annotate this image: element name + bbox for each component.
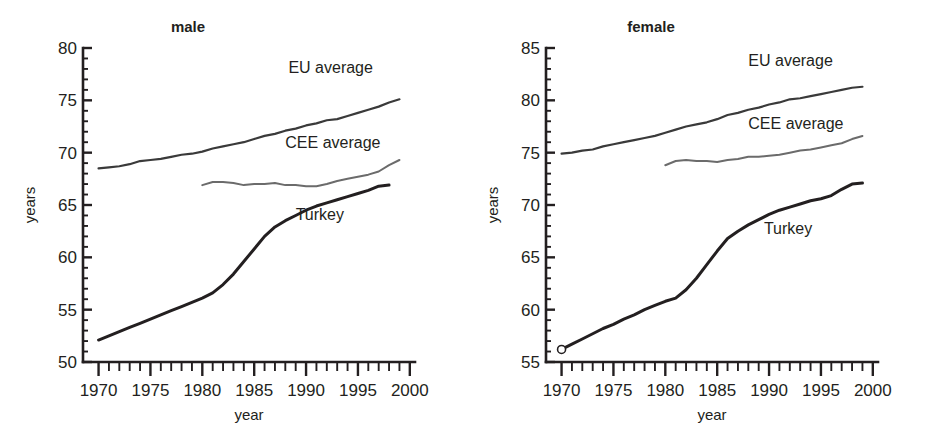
- x-tick-label: 1990: [750, 381, 788, 400]
- series-start-marker: [558, 345, 566, 353]
- y-tick-label: 70: [521, 196, 540, 215]
- panel-title: male: [171, 18, 205, 35]
- x-tick-label: 1975: [132, 381, 170, 400]
- x-tick-label: 1970: [80, 381, 118, 400]
- series-line-turkey: [562, 183, 863, 349]
- y-tick-label: 80: [58, 39, 77, 58]
- y-tick-label: 65: [58, 196, 77, 215]
- series-label-eu-average: EU average: [748, 52, 833, 69]
- chart-svg-male: 5055606570758019701975198019851990199520…: [0, 0, 463, 436]
- chart-female: 5560657075808519701975198019851990199520…: [484, 18, 892, 423]
- series-label-eu-average: EU average: [288, 59, 373, 76]
- x-tick-label: 2000: [854, 381, 892, 400]
- y-tick-label: 85: [521, 39, 540, 58]
- chart-panel-male: 5055606570758019701975198019851990199520…: [0, 0, 463, 436]
- series-label-turkey: Turkey: [296, 206, 344, 223]
- x-tick-label: 1985: [698, 381, 736, 400]
- chart-male: 5055606570758019701975198019851990199520…: [21, 18, 429, 423]
- x-tick-label: 2000: [391, 381, 429, 400]
- x-tick-label: 1980: [646, 381, 684, 400]
- series-label-cee-average: CEE average: [285, 134, 380, 151]
- y-tick-label: 75: [58, 91, 77, 110]
- y-tick-label: 60: [58, 248, 77, 267]
- x-tick-label: 1970: [543, 381, 581, 400]
- y-axis-title: years: [484, 187, 501, 224]
- y-tick-label: 50: [58, 353, 77, 372]
- y-tick-label: 55: [521, 353, 540, 372]
- series-label-turkey: Turkey: [764, 220, 812, 237]
- y-tick-label: 55: [58, 301, 77, 320]
- series-line-cee-average: [665, 136, 862, 165]
- series-label-cee-average: CEE average: [748, 115, 843, 132]
- y-tick-label: 70: [58, 144, 77, 163]
- x-tick-label: 1990: [287, 381, 325, 400]
- y-tick-label: 60: [521, 301, 540, 320]
- chart-panel-female: 5560657075808519701975198019851990199520…: [463, 0, 926, 436]
- series-line-turkey: [99, 185, 390, 340]
- y-tick-label: 75: [521, 144, 540, 163]
- chart-svg-female: 5560657075808519701975198019851990199520…: [463, 0, 926, 436]
- figure-root: 5055606570758019701975198019851990199520…: [0, 0, 926, 436]
- y-tick-label: 80: [521, 91, 540, 110]
- x-tick-label: 1980: [183, 381, 221, 400]
- series-line-cee-average: [202, 160, 399, 186]
- x-tick-label: 1985: [235, 381, 273, 400]
- panel-title: female: [627, 18, 675, 35]
- y-tick-label: 65: [521, 248, 540, 267]
- x-tick-label: 1995: [802, 381, 840, 400]
- x-axis-title: year: [234, 406, 263, 423]
- x-tick-label: 1975: [595, 381, 633, 400]
- x-tick-label: 1995: [339, 381, 377, 400]
- x-axis-title: year: [697, 406, 726, 423]
- y-axis-title: years: [21, 187, 38, 224]
